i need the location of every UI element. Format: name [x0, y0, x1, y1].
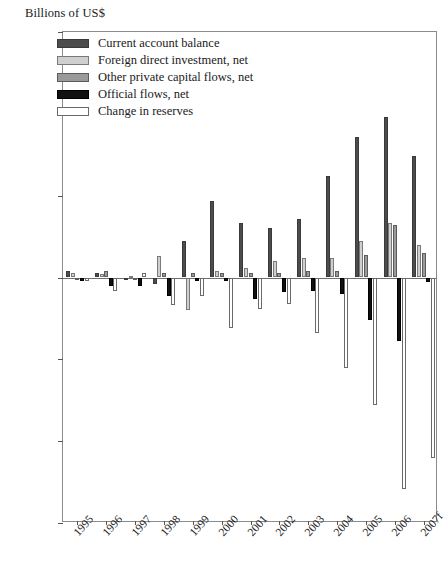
legend-item: Change in reserves: [57, 104, 253, 119]
bar: [393, 225, 397, 277]
bar: [249, 273, 253, 278]
bar: [268, 228, 272, 277]
bar: [402, 278, 406, 489]
bar: [129, 276, 133, 278]
zero-baseline: [63, 278, 436, 279]
bar: [253, 278, 257, 299]
bar: [71, 273, 75, 278]
bar: [273, 261, 277, 277]
bar: [244, 268, 248, 278]
bar: [75, 278, 79, 280]
bar: [113, 278, 117, 291]
bar: [171, 278, 175, 306]
legend-item-label: Change in reserves: [98, 105, 193, 118]
bar: [153, 278, 157, 285]
bar: [297, 219, 301, 278]
bar: [258, 278, 262, 309]
bar: [373, 278, 377, 406]
bar: [384, 117, 388, 277]
bar: [315, 278, 319, 334]
legend-item: Other private capital flows, net: [57, 70, 253, 85]
bar: [80, 278, 84, 281]
legend-swatch-icon: [57, 39, 89, 48]
bar: [426, 278, 430, 283]
bar: [162, 273, 166, 278]
chart-figure: Billions of US$ 150100500−50−100−150 199…: [0, 0, 448, 569]
bar: [335, 271, 339, 278]
bar: [344, 278, 348, 368]
bar: [186, 278, 190, 311]
bar: [422, 253, 426, 278]
bar: [229, 278, 233, 329]
bar: [302, 258, 306, 278]
bar: [66, 271, 70, 278]
legend-item-label: Current account balance: [98, 37, 219, 50]
bar: [397, 278, 401, 342]
y-tick-mark: [58, 278, 63, 279]
bar: [215, 271, 219, 278]
bar: [277, 273, 281, 278]
bar: [182, 241, 186, 277]
bar: [368, 278, 372, 321]
bar: [167, 278, 171, 296]
bar: [359, 241, 363, 277]
bar: [133, 278, 137, 280]
legend-item-label: Foreign direct investment, net: [98, 54, 248, 67]
bar: [311, 278, 315, 291]
bar: [157, 256, 161, 277]
bar: [364, 255, 368, 278]
bar: [287, 278, 291, 304]
bar: [220, 273, 224, 278]
bar: [142, 273, 146, 278]
bar: [388, 223, 392, 277]
bar: [431, 278, 435, 458]
legend-item-label: Other private capital flows, net: [98, 71, 253, 84]
bar: [306, 271, 310, 278]
legend-swatch-icon: [57, 56, 89, 65]
bar: [95, 273, 99, 278]
bar: [124, 278, 128, 280]
bar: [195, 278, 199, 281]
chart-axis-title: Billions of US$: [25, 6, 105, 21]
bar: [330, 258, 334, 278]
legend-item-label: Official flows, net: [98, 88, 189, 101]
y-tick-mark: [58, 196, 63, 197]
bar: [200, 278, 204, 296]
bar: [138, 278, 142, 286]
legend-swatch-icon: [57, 90, 89, 99]
y-tick-mark: [58, 359, 63, 360]
bar: [109, 278, 113, 286]
legend-item: Official flows, net: [57, 87, 253, 102]
y-tick-mark: [58, 523, 63, 524]
legend-swatch-icon: [57, 107, 89, 116]
chart-legend: Current account balance Foreign direct i…: [57, 36, 253, 119]
legend-item: Current account balance: [57, 36, 253, 51]
bar: [210, 201, 214, 278]
bar: [282, 278, 286, 293]
bar: [100, 274, 104, 277]
bar: [412, 156, 416, 277]
y-tick-mark: [58, 441, 63, 442]
bar: [326, 176, 330, 277]
bar: [340, 278, 344, 294]
bar: [239, 223, 243, 277]
bar: [417, 245, 421, 278]
legend-item: Foreign direct investment, net: [57, 53, 253, 68]
bar: [104, 271, 108, 278]
bar: [224, 278, 228, 281]
bar: [355, 137, 359, 278]
y-tick-mark: [58, 32, 63, 33]
bar: [191, 273, 195, 278]
legend-swatch-icon: [57, 73, 89, 82]
bar: [85, 278, 89, 281]
